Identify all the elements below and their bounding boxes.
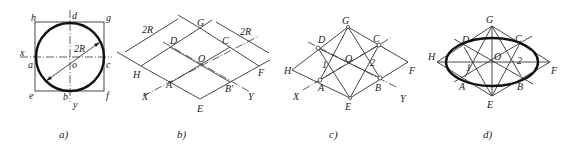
arrowhead <box>94 42 100 47</box>
label-A: A <box>317 82 325 93</box>
label-o: o <box>72 59 77 70</box>
label-A: A <box>458 81 466 92</box>
label-H: H <box>132 69 141 80</box>
label-f: f <box>106 90 110 101</box>
label-1: 1 <box>322 59 327 70</box>
label-G: G <box>342 15 349 26</box>
label-2R-1: 2R <box>142 24 153 35</box>
label-b: b <box>63 91 68 102</box>
label-C: C <box>373 33 380 44</box>
extension-line <box>117 52 141 66</box>
arrowhead <box>46 76 52 81</box>
label-H: H <box>427 51 436 62</box>
label-h: h <box>31 12 36 23</box>
label-Y: Y <box>400 93 407 104</box>
label-A: A <box>165 79 173 90</box>
panel-d: G D C O 1 2 H F A B E d) <box>427 14 558 141</box>
caption-b: b) <box>177 128 187 141</box>
label-O: O <box>198 53 205 64</box>
label-G: G <box>486 14 493 25</box>
label-2R-2: 2R <box>240 26 251 37</box>
label-y: y <box>72 99 78 110</box>
panel-c: G D C O 1 2 H F A B X Y E c) <box>283 15 416 141</box>
label-e: e <box>29 90 34 101</box>
label-D: D <box>317 34 326 45</box>
label-2: 2 <box>517 55 522 66</box>
label-d: d <box>72 10 78 21</box>
label-G: G <box>197 17 204 28</box>
panel-a: h d g x a o c 2R e b f y a) <box>19 10 112 141</box>
label-1: 1 <box>466 62 471 73</box>
label-C: C <box>515 33 522 44</box>
caption-a: a) <box>59 128 69 141</box>
label-c: c <box>106 59 111 70</box>
panel-b: 2R 2R G D C O H F A B' X Y E b) <box>117 15 270 141</box>
label-F: F <box>550 65 558 76</box>
label-O: O <box>345 53 352 64</box>
label-E: E <box>344 101 351 112</box>
caption-c: c) <box>329 128 338 141</box>
label-X: X <box>141 91 149 102</box>
label-x: x <box>19 47 25 58</box>
caption-d: d) <box>483 128 493 141</box>
label-H: H <box>283 65 292 76</box>
extension-line <box>259 60 270 66</box>
y-axis <box>163 42 250 92</box>
label-C: C <box>222 35 229 46</box>
label-E: E <box>196 103 203 114</box>
label-F: F <box>257 67 265 78</box>
label-a: a <box>28 59 33 70</box>
label-2R: 2R <box>74 43 85 54</box>
label-D: D <box>461 34 470 45</box>
label-D: D <box>169 35 178 46</box>
label-F: F <box>408 65 416 76</box>
label-Y: Y <box>248 91 255 102</box>
label-B: B <box>517 81 523 92</box>
label-2: 2 <box>370 57 375 68</box>
isometric-ellipse-construction-diagram: h d g x a o c 2R e b f y a) 2R 2R G D C … <box>0 0 570 148</box>
label-B: B' <box>225 83 234 94</box>
label-B: B <box>375 82 381 93</box>
label-E: E <box>486 99 493 110</box>
label-X: X <box>292 91 300 102</box>
x-axis <box>143 36 259 96</box>
label-O: O <box>494 51 501 62</box>
label-g: g <box>106 12 111 23</box>
